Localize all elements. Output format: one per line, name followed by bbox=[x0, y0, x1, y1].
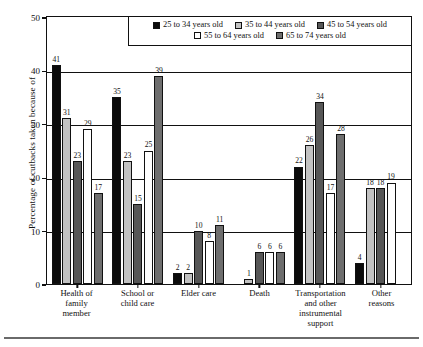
bar bbox=[205, 241, 214, 284]
y-tick-label-40: 40 bbox=[14, 66, 40, 76]
legend-item[interactable]: 45 to 54 years old bbox=[317, 20, 387, 31]
x-category-label: Death bbox=[229, 288, 290, 298]
bar bbox=[244, 279, 253, 284]
bar-value-label: 17 bbox=[327, 184, 335, 192]
bar bbox=[144, 151, 153, 285]
bar-value-label: 4 bbox=[358, 254, 362, 262]
bar-group: 4181819 bbox=[355, 17, 406, 284]
bar-slot: 25 bbox=[144, 17, 153, 284]
bar-slot: 17 bbox=[94, 17, 103, 284]
bar-value-label: 22 bbox=[295, 157, 303, 165]
y-tick-mark-50 bbox=[42, 17, 46, 18]
bar-groups: 4131232917352315253922108111666222634172… bbox=[47, 17, 411, 284]
y-tick-label-50: 50 bbox=[14, 13, 40, 23]
y-tick-mark-40 bbox=[42, 71, 46, 72]
bar-slot: 18 bbox=[376, 17, 385, 284]
bar-group: 2226341728 bbox=[294, 17, 345, 284]
bar-slot: 26 bbox=[305, 17, 314, 284]
bar-slot: 1 bbox=[244, 17, 253, 284]
bar bbox=[123, 161, 132, 284]
bar-value-label: 2 bbox=[176, 264, 180, 272]
legend-swatch-icon bbox=[194, 32, 201, 39]
x-category-label: Otherreasons bbox=[351, 288, 412, 308]
bar-value-label: 17 bbox=[95, 184, 103, 192]
bar-value-label: 6 bbox=[257, 243, 261, 251]
bar-slot: 22 bbox=[294, 17, 303, 284]
y-tick-mark-0 bbox=[42, 284, 46, 285]
legend-label: 25 to 34 years old bbox=[163, 20, 223, 31]
bar-value-label: 41 bbox=[53, 56, 61, 64]
bar bbox=[62, 118, 71, 284]
bar bbox=[154, 76, 163, 284]
bar-slot: 23 bbox=[123, 17, 132, 284]
bar-slot: 6 bbox=[265, 17, 274, 284]
x-category-label: School orchild care bbox=[107, 288, 168, 308]
bar-slot: 2 bbox=[173, 17, 182, 284]
bar-value-label: 39 bbox=[155, 67, 163, 75]
y-tick-label-10: 10 bbox=[14, 227, 40, 237]
y-tick-mark-20 bbox=[42, 178, 46, 179]
y-axis-title: Percentage of cutbacks taken because of bbox=[27, 13, 37, 293]
bar bbox=[376, 188, 385, 284]
legend-swatch-icon bbox=[235, 22, 242, 29]
bar bbox=[255, 252, 264, 284]
legend-label: 65 to 74 years old bbox=[286, 31, 346, 42]
bar-group: 3523152539 bbox=[112, 17, 163, 284]
bar-group: 1666 bbox=[234, 17, 285, 284]
bar bbox=[133, 204, 142, 284]
legend: 25 to 34 years old35 to 44 years old45 t… bbox=[128, 16, 412, 46]
bar-value-label: 11 bbox=[216, 216, 223, 224]
legend-item[interactable]: 25 to 34 years old bbox=[153, 20, 223, 31]
x-axis-labels: Health offamilymemberSchool orchild care… bbox=[46, 288, 412, 336]
bar-value-label: 19 bbox=[387, 173, 395, 181]
bar-value-label: 1 bbox=[247, 270, 251, 278]
bar-value-label: 23 bbox=[74, 152, 82, 160]
bar-slot: 15 bbox=[133, 17, 142, 284]
legend-swatch-icon bbox=[276, 32, 283, 39]
bar-slot: 8 bbox=[205, 17, 214, 284]
figure: Percentage of cutbacks taken because of … bbox=[0, 0, 423, 347]
legend-label: 35 to 44 years old bbox=[245, 20, 305, 31]
y-tick-label-0: 0 bbox=[14, 280, 40, 290]
bar-slot: 11 bbox=[215, 17, 224, 284]
bar-slot: 2 bbox=[184, 17, 193, 284]
bar-slot: 29 bbox=[83, 17, 92, 284]
bar-value-label: 8 bbox=[207, 232, 211, 240]
bar-value-label: 15 bbox=[134, 195, 142, 203]
legend-label: 45 to 54 years old bbox=[327, 20, 387, 31]
legend-row-1: 25 to 34 years old35 to 44 years old45 t… bbox=[134, 20, 406, 31]
bar-value-label: 29 bbox=[84, 120, 92, 128]
bar-slot: 6 bbox=[255, 17, 264, 284]
bar-slot: 23 bbox=[73, 17, 82, 284]
bar bbox=[194, 231, 203, 284]
bar bbox=[326, 193, 335, 284]
bar bbox=[215, 225, 224, 284]
bar bbox=[387, 183, 396, 284]
bar-value-label: 26 bbox=[306, 136, 314, 144]
bar-slot: 18 bbox=[366, 17, 375, 284]
bar-value-label: 25 bbox=[145, 141, 153, 149]
bar bbox=[305, 145, 314, 284]
bar-slot: 17 bbox=[326, 17, 335, 284]
bar-slot bbox=[397, 17, 406, 284]
legend-label: 55 to 64 years old bbox=[204, 31, 264, 42]
bar-slot: 6 bbox=[276, 17, 285, 284]
bar-slot: 39 bbox=[154, 17, 163, 284]
bar bbox=[265, 252, 274, 284]
bar-value-label: 18 bbox=[366, 179, 374, 187]
bar-value-label: 34 bbox=[316, 93, 324, 101]
bar bbox=[336, 134, 345, 284]
bar-value-label: 6 bbox=[268, 243, 272, 251]
legend-item[interactable]: 65 to 74 years old bbox=[276, 31, 346, 42]
legend-item[interactable]: 35 to 44 years old bbox=[235, 20, 305, 31]
legend-item[interactable]: 55 to 64 years old bbox=[194, 31, 264, 42]
bar-slot: 10 bbox=[194, 17, 203, 284]
bottom-rule bbox=[4, 337, 419, 339]
y-tick-mark-10 bbox=[42, 231, 46, 232]
bar bbox=[52, 65, 61, 284]
legend-row-2: 55 to 64 years old65 to 74 years old bbox=[134, 31, 406, 42]
bar-slot: 4 bbox=[355, 17, 364, 284]
bar bbox=[83, 129, 92, 284]
bar bbox=[294, 167, 303, 284]
bar bbox=[112, 97, 121, 284]
